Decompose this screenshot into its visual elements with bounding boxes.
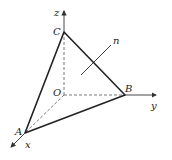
label-y: y	[150, 100, 157, 111]
edge-OA-dashed	[25, 95, 64, 133]
triangle-ABC	[25, 32, 125, 133]
label-B: B	[124, 83, 132, 94]
label-A: A	[14, 126, 22, 137]
label-x: x	[25, 139, 31, 150]
label-C: C	[53, 26, 61, 37]
label-n: n	[113, 35, 119, 46]
tetrahedron-diagram: z C n O B y A x	[0, 0, 172, 160]
label-z: z	[53, 7, 60, 18]
normal-vector-n	[81, 45, 111, 75]
label-O: O	[53, 87, 61, 98]
